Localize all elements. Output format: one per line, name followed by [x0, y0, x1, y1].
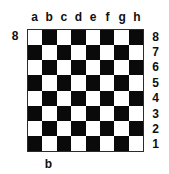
- file-label-c: c: [56, 9, 71, 25]
- square-a7: [28, 45, 42, 60]
- square-b7: [42, 45, 56, 60]
- rank-label-1: 1: [148, 137, 163, 152]
- rank-label-7: 7: [148, 44, 163, 59]
- square-d8: [71, 30, 85, 45]
- file-label-bottom-b: b: [41, 156, 56, 172]
- file-label-h: h: [129, 9, 144, 25]
- rank-label-4: 4: [148, 91, 163, 106]
- square-b5: [42, 75, 56, 90]
- square-d3: [71, 106, 85, 121]
- square-b1: [42, 136, 56, 151]
- square-g2: [114, 121, 128, 136]
- file-label-b: b: [42, 9, 57, 25]
- square-d2: [71, 121, 85, 136]
- rank-labels-right: 8 7 6 5 4 3 2 1: [148, 29, 163, 152]
- square-c4: [57, 91, 71, 106]
- rank-label-6: 6: [148, 60, 163, 75]
- square-b2: [42, 121, 56, 136]
- square-g8: [114, 30, 128, 45]
- square-a3: [28, 106, 42, 121]
- chess-board: [27, 29, 144, 152]
- square-f2: [100, 121, 114, 136]
- rank-label-3: 3: [148, 106, 163, 121]
- square-d7: [71, 45, 85, 60]
- square-g5: [114, 75, 128, 90]
- square-e6: [86, 60, 100, 75]
- square-b3: [42, 106, 56, 121]
- square-e2: [86, 121, 100, 136]
- square-d5: [71, 75, 85, 90]
- square-c8: [57, 30, 71, 45]
- square-h7: [129, 45, 143, 60]
- square-e5: [86, 75, 100, 90]
- square-a5: [28, 75, 42, 90]
- square-b8: [42, 30, 56, 45]
- square-h2: [129, 121, 143, 136]
- square-d4: [71, 91, 85, 106]
- square-h4: [129, 91, 143, 106]
- square-g6: [114, 60, 128, 75]
- square-c5: [57, 75, 71, 90]
- square-f1: [100, 136, 114, 151]
- square-f8: [100, 30, 114, 45]
- square-e7: [86, 45, 100, 60]
- square-h3: [129, 106, 143, 121]
- square-c6: [57, 60, 71, 75]
- square-c7: [57, 45, 71, 60]
- square-c3: [57, 106, 71, 121]
- square-a4: [28, 91, 42, 106]
- square-g1: [114, 136, 128, 151]
- square-f6: [100, 60, 114, 75]
- square-a8: [28, 30, 42, 45]
- file-label-a: a: [27, 9, 42, 25]
- square-a6: [28, 60, 42, 75]
- square-f5: [100, 75, 114, 90]
- square-f3: [100, 106, 114, 121]
- square-e4: [86, 91, 100, 106]
- square-g7: [114, 45, 128, 60]
- rank-label-8: 8: [148, 29, 163, 44]
- square-h8: [129, 30, 143, 45]
- square-e3: [86, 106, 100, 121]
- square-f7: [100, 45, 114, 60]
- square-d6: [71, 60, 85, 75]
- square-g3: [114, 106, 128, 121]
- square-f4: [100, 91, 114, 106]
- rank-label-5: 5: [148, 75, 163, 90]
- square-b6: [42, 60, 56, 75]
- file-label-d: d: [71, 9, 86, 25]
- file-label-e: e: [86, 9, 101, 25]
- square-c2: [57, 121, 71, 136]
- square-a2: [28, 121, 42, 136]
- file-labels-top: a b c d e f g h: [27, 9, 144, 25]
- rank-label-2: 2: [148, 121, 163, 136]
- square-b4: [42, 91, 56, 106]
- square-e1: [86, 136, 100, 151]
- file-label-f: f: [100, 9, 115, 25]
- square-g4: [114, 91, 128, 106]
- square-h1: [129, 136, 143, 151]
- square-h6: [129, 60, 143, 75]
- rank-label-left-8: 8: [8, 29, 22, 44]
- square-d1: [71, 136, 85, 151]
- chessboard-diagram: a b c d e f g h 8 8 7 6 5 4 3 2 1 b: [0, 0, 169, 174]
- square-h5: [129, 75, 143, 90]
- file-label-g: g: [115, 9, 130, 25]
- square-e8: [86, 30, 100, 45]
- square-a1: [28, 136, 42, 151]
- square-c1: [57, 136, 71, 151]
